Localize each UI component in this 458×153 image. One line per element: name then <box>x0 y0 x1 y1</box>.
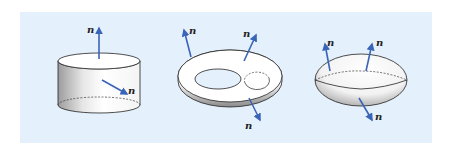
normal-label: n <box>376 37 383 48</box>
torus-hole <box>195 69 241 89</box>
normal-label: n <box>375 111 382 122</box>
normal-label: n <box>87 24 94 35</box>
normal-label: n <box>128 85 135 96</box>
normal-label: n <box>327 37 334 48</box>
normal-label: n <box>243 28 250 39</box>
surface-normals-figure: n n n n n n n n <box>0 0 458 153</box>
normal-label: n <box>245 120 252 131</box>
normal-label: n <box>189 25 196 36</box>
